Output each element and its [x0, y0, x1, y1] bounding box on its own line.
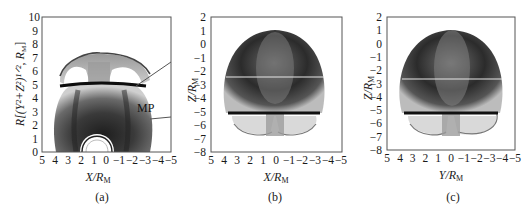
panel-c: −8 −7 −6 −5 −4 −3 −2 −1 0 1 2 5 4 3 2 1 …: [346, 0, 523, 211]
panel-b: −8 −7 −6 −5 −4 −3 −2 −1 0 1 2 5 4 3 2 1 …: [170, 0, 347, 211]
svg-text:4: 4: [221, 154, 227, 166]
svg-text:−2: −2: [296, 154, 308, 166]
x-axis-label-c: Y/RM: [439, 168, 463, 183]
heatmap-c: [399, 30, 502, 136]
svg-text:1: 1: [260, 154, 266, 166]
svg-text:7: 7: [32, 52, 38, 64]
svg-text:0: 0: [200, 38, 206, 50]
svg-text:1: 1: [435, 152, 441, 164]
svg-text:0: 0: [273, 154, 279, 166]
svg-text:2: 2: [32, 119, 38, 131]
plot-a: MP 0 1 2 3 4 5 6 7 8 9 10 5 4 3 2 1 0 −1…: [0, 0, 177, 211]
svg-text:0: 0: [32, 146, 38, 158]
svg-text:0: 0: [376, 38, 382, 50]
svg-text:2: 2: [376, 11, 382, 23]
svg-text:−4: −4: [496, 152, 508, 164]
svg-text:4: 4: [32, 92, 38, 104]
svg-text:−8: −8: [370, 144, 382, 156]
svg-text:9: 9: [32, 25, 38, 37]
annotation-line-lower: [150, 117, 171, 119]
svg-text:0: 0: [448, 152, 454, 164]
svg-text:3: 3: [65, 154, 71, 166]
svg-text:−6: −6: [194, 119, 206, 131]
svg-text:−7: −7: [370, 131, 382, 143]
y-axis-label-b: Z/RM: [185, 78, 200, 102]
plot-b: −8 −7 −6 −5 −4 −3 −2 −1 0 1 2 5 4 3 2 1 …: [170, 0, 347, 211]
svg-text:−1: −1: [458, 152, 470, 164]
svg-text:3: 3: [410, 152, 416, 164]
svg-text:−3: −3: [483, 152, 495, 164]
svg-text:1: 1: [376, 24, 382, 36]
svg-text:8: 8: [32, 38, 38, 50]
svg-text:−4: −4: [322, 154, 334, 166]
x-ticks-b: 5 4 3 2 1 0 −1 −2 −3 −4 −5: [208, 154, 347, 166]
svg-text:3: 3: [32, 106, 38, 118]
heatmap-b: [224, 30, 325, 136]
y-ticks-a: 0 1 2 3 4 5 6 7 8 9 10: [29, 11, 41, 158]
svg-text:−1: −1: [113, 154, 125, 166]
svg-text:5: 5: [384, 152, 390, 164]
y-axis-label-a: R[(Y²+Z²)¹ᐟ², RM]: [13, 42, 28, 127]
svg-text:4: 4: [397, 152, 403, 164]
y-axis-label-c: Z/RM: [361, 76, 376, 100]
plot-c: −8 −7 −6 −5 −4 −3 −2 −1 0 1 2 5 4 3 2 1 …: [346, 0, 532, 211]
svg-text:−2: −2: [194, 65, 206, 77]
svg-text:−1: −1: [370, 51, 382, 63]
x-ticks-a: 5 4 3 2 1 0 −1 −2 −3 −4 −5: [39, 154, 177, 166]
svg-text:2: 2: [200, 11, 206, 23]
svg-text:−5: −5: [194, 106, 206, 118]
svg-text:5: 5: [32, 79, 38, 91]
svg-text:2: 2: [78, 154, 84, 166]
svg-text:−2: −2: [370, 64, 382, 76]
caption-a: (a): [95, 190, 108, 204]
svg-text:2: 2: [423, 152, 429, 164]
svg-text:2: 2: [247, 154, 253, 166]
svg-text:5: 5: [208, 154, 214, 166]
caption-b: (b): [268, 190, 282, 204]
svg-text:6: 6: [32, 65, 38, 77]
svg-text:10: 10: [29, 11, 41, 23]
svg-text:0: 0: [103, 154, 109, 166]
caption-c: (c): [446, 190, 459, 204]
svg-text:−6: −6: [370, 117, 382, 129]
svg-text:4: 4: [52, 154, 58, 166]
svg-text:−1: −1: [283, 154, 295, 166]
svg-text:1: 1: [32, 133, 38, 145]
x-axis-label-b: X/RM: [262, 170, 288, 185]
svg-text:−7: −7: [194, 133, 206, 145]
svg-text:−3: −3: [139, 154, 151, 166]
svg-text:−3: −3: [309, 154, 321, 166]
panel-a: MP 0 1 2 3 4 5 6 7 8 9 10 5 4 3 2 1 0 −1…: [0, 0, 177, 211]
mp-annotation: MP: [137, 101, 155, 115]
svg-text:5: 5: [39, 154, 45, 166]
x-axis-label-a: X/RM: [84, 170, 110, 185]
svg-text:−4: −4: [152, 154, 164, 166]
svg-text:1: 1: [200, 25, 206, 37]
svg-text:−2: −2: [126, 154, 138, 166]
svg-text:−1: −1: [194, 52, 206, 64]
svg-text:−5: −5: [509, 152, 521, 164]
svg-text:−2: −2: [470, 152, 482, 164]
svg-text:−8: −8: [194, 146, 206, 158]
svg-text:−5: −5: [370, 104, 382, 116]
svg-text:1: 1: [91, 154, 97, 166]
svg-text:3: 3: [234, 154, 240, 166]
x-ticks-c: 5 4 3 2 1 0 −1 −2 −3 −4 −5: [384, 152, 521, 164]
